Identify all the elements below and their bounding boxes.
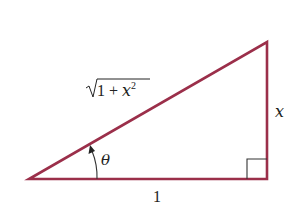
- right-angle-marker: [247, 159, 267, 179]
- opposite-label: x: [275, 102, 284, 121]
- svg-text:1 + x2: 1 + x2: [97, 80, 136, 100]
- angle-arc: [92, 151, 97, 179]
- angle-label: θ: [101, 151, 110, 169]
- hypotenuse-label: 1 + x2: [86, 79, 150, 100]
- arrow-head-icon: [89, 145, 96, 154]
- adjacent-label: 1: [153, 188, 161, 205]
- right-triangle-diagram: 1 + x2 x 1 θ: [0, 0, 287, 206]
- triangle: [29, 42, 267, 179]
